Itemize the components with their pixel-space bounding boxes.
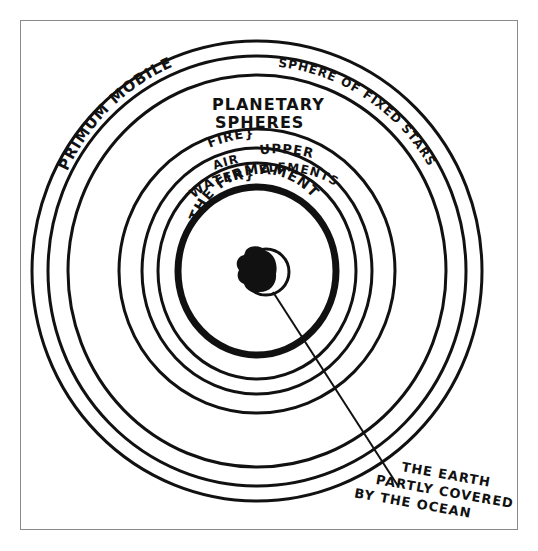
cosmos-diagram: PRIMUM MOBILE SPHERE OF FIXED STARS PLAN… xyxy=(0,0,538,551)
label-upper: UPPER xyxy=(259,141,316,161)
label-planetary-1: PLANETARY xyxy=(212,95,325,114)
label-fire: FIRE} xyxy=(205,126,255,151)
earth xyxy=(237,246,289,295)
